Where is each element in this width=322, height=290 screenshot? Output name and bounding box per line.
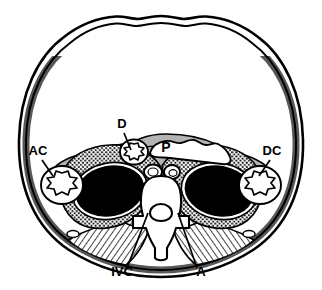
label-dc: DC [263, 143, 282, 158]
label-p: P [161, 139, 170, 155]
label-ac: AC [29, 143, 48, 158]
aorta-lumen [169, 170, 177, 177]
spinal-canal [150, 204, 172, 221]
label-ivc: IVC [111, 264, 133, 279]
abdominal-cross-section-diagram: AC D P DC RK LK IVC A [0, 0, 322, 290]
label-a: A [196, 264, 206, 279]
inferior-vena-cava-lumen [148, 168, 158, 176]
label-d: D [117, 116, 126, 131]
figure-canvas: AC D P DC RK LK IVC A [0, 0, 322, 290]
label-rk: RK [100, 183, 120, 199]
label-lk: LK [210, 183, 229, 199]
left-flank-vessel [243, 231, 255, 238]
right-flank-vessel [67, 231, 79, 238]
